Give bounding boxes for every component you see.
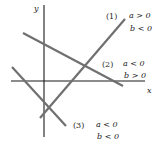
line-sign-diagram: x y (1) a > 0 b < 0 (2) a < 0 b > 0 (3) …: [0, 0, 155, 147]
line-1-cond-b: b < 0: [130, 24, 152, 33]
line-1-cond-a: a > 0: [129, 11, 151, 20]
diagram-svg: x y (1) a > 0 b < 0 (2) a < 0 b > 0 (3) …: [0, 0, 155, 147]
x-axis-label: x: [147, 86, 152, 95]
line-1-tag: (1): [106, 12, 117, 21]
line-3-cond-b: b < 0: [97, 132, 119, 141]
line-2-cond-b: b > 0: [124, 71, 146, 80]
y-axis-label: y: [33, 4, 39, 13]
line-3-cond-a: a < 0: [96, 120, 118, 129]
line-2-cond-a: a < 0: [123, 59, 145, 68]
line-2-tag: (2): [102, 60, 113, 69]
line-3-tag: (3): [73, 121, 84, 130]
